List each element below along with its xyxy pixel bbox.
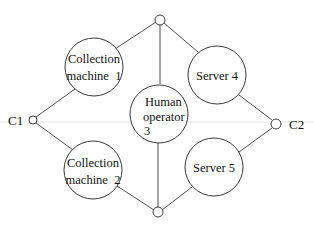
node-label-line2: operator	[143, 110, 185, 124]
node-human-operator-3: Human operator 3	[130, 85, 188, 143]
node-label-line2: machine 2	[66, 173, 121, 187]
node-collection-machine-1: Collection machine 1	[65, 38, 123, 96]
edge-s4-c2	[239, 95, 272, 120]
terminal-c2-label: C2	[289, 117, 304, 132]
node-label: Server 4	[196, 69, 239, 83]
node-circle	[65, 38, 123, 96]
node-server-5: Server 5	[185, 138, 243, 196]
edge-top-s4	[164, 23, 198, 52]
node-label-line1: Human	[145, 95, 183, 109]
terminal-c1-label: C1	[8, 113, 23, 128]
node-label: Server 5	[193, 161, 235, 175]
node-collection-machine-2: Collection machine 2	[64, 141, 122, 199]
junction-bottom	[153, 207, 163, 217]
node-label-line1: Collection	[67, 156, 120, 170]
junction-top	[155, 15, 165, 25]
terminal-c2	[271, 119, 281, 129]
edge-c1-cm1	[36, 89, 75, 117]
edge-cm1-top	[115, 22, 156, 49]
edge-bottom-s5	[162, 187, 192, 210]
edge-c1-cm2	[36, 123, 73, 150]
network-diagram: C1 C2 Collection machine 1 Collection ma…	[0, 0, 314, 227]
node-circle	[64, 141, 122, 199]
node-label-line1: Collection	[68, 52, 121, 66]
edge-cm2-bottom	[117, 186, 154, 210]
node-label-line3: 3	[144, 124, 150, 138]
edge-s5-c2	[239, 128, 272, 152]
node-server-4: Server 4	[188, 46, 246, 104]
terminal-c1	[29, 116, 37, 124]
node-label-line2: machine 1	[67, 69, 122, 83]
